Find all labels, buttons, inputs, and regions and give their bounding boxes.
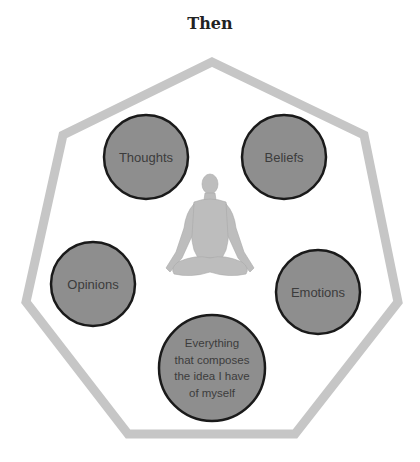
node-thoughts: Thoughts <box>104 115 188 199</box>
node-label: the idea I have <box>174 370 249 382</box>
node-opinions: Opinions <box>51 242 135 326</box>
node-beliefs: Beliefs <box>242 115 326 199</box>
node-label: Emotions <box>291 285 346 300</box>
node-label: Beliefs <box>264 150 304 165</box>
node-label: Opinions <box>67 277 119 292</box>
node-label: of myself <box>189 387 236 399</box>
node-label: Thoughts <box>119 150 174 165</box>
node-circle <box>159 315 265 421</box>
meditating-person-icon <box>166 174 254 276</box>
node-self: Everythingthat composesthe idea I haveof… <box>159 315 265 421</box>
node-label: Everything <box>185 337 239 349</box>
node-label: that composes <box>175 354 250 366</box>
node-emotions: Emotions <box>276 250 360 334</box>
diagram-canvas: ThoughtsBeliefsOpinionsEmotionsEverythin… <box>0 0 420 462</box>
